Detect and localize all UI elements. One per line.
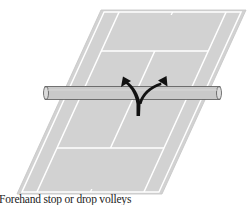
figure-caption: Forehand stop or drop volleys [0,193,131,205]
court [17,10,246,194]
net-end-right [217,87,222,100]
net-end-left [44,87,49,100]
tennis-court-diagram [0,0,251,205]
